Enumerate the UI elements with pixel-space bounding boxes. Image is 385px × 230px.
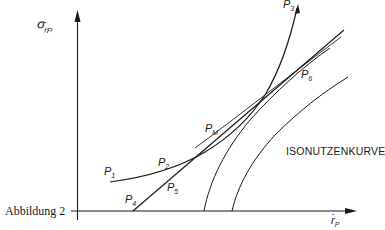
capital-market-line xyxy=(133,30,344,211)
y-axis-arrow-icon xyxy=(75,10,81,22)
point-subscript: M xyxy=(212,129,218,136)
point-label-p2: P2 xyxy=(158,156,169,170)
point-label-p3: P3 xyxy=(283,0,294,12)
y-axis-subscript: rP xyxy=(44,26,53,36)
indifference-curve-2 xyxy=(232,77,348,211)
point-subscript: 5 xyxy=(174,188,178,195)
point-label-p5: P5 xyxy=(167,181,178,195)
point-label-pm: PM xyxy=(205,122,218,136)
point-subscript: 2 xyxy=(165,163,169,170)
point-subscript: 1 xyxy=(111,172,115,179)
point-subscript: 6 xyxy=(308,75,312,82)
point-subscript: 4 xyxy=(132,200,136,207)
y-axis-label: σrP xyxy=(36,16,54,36)
figure-caption: Abbildung 2 xyxy=(5,204,65,219)
x-axis-label: r̄P xyxy=(331,214,339,228)
point-label-p4: P4 xyxy=(125,193,136,207)
point-label-p1: P1 xyxy=(104,165,115,179)
x-axis-arrow-icon xyxy=(345,208,357,214)
x-axis-subscript: P xyxy=(335,221,340,228)
indifference-curve-label: ISONUTZENKURVE xyxy=(286,145,385,157)
curve-arrow-icon xyxy=(295,4,300,14)
point-subscript: 3 xyxy=(290,5,294,12)
point-label-p6: P6 xyxy=(301,68,312,82)
